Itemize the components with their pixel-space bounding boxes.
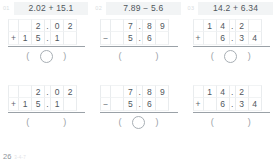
right-paren: ) — [63, 52, 66, 61]
problem-grid: 012.02 + 15.12.02+15.1()027.89 − 5.67.89… — [0, 0, 277, 132]
answer-input-slot[interactable] — [123, 115, 153, 130]
digit-cell[interactable]: 4 — [249, 98, 262, 111]
digit-cell[interactable]: 4 — [249, 32, 262, 45]
problem-index: 03 — [188, 6, 195, 12]
operator-cell[interactable]: − — [100, 98, 111, 111]
digit-cell[interactable]: 9 — [156, 19, 169, 32]
digit-cell[interactable]: 4 — [217, 85, 230, 98]
problem-6: 14.2+6.34() — [185, 66, 277, 132]
digit-cell[interactable]: 3 — [236, 98, 249, 111]
digit-cell[interactable]: 6 — [143, 98, 156, 111]
problem-header — [0, 66, 92, 83]
digit-cell[interactable]: 6 — [217, 98, 230, 111]
operator-cell[interactable] — [8, 85, 19, 98]
operator-cell[interactable] — [193, 19, 204, 32]
digit-cell[interactable] — [64, 98, 77, 111]
digit-cell[interactable]: 6 — [143, 32, 156, 45]
answer-input-slot[interactable] — [31, 49, 61, 64]
digit-cell[interactable]: 5 — [32, 98, 45, 111]
answer-row: () — [185, 47, 277, 66]
problem-5: 7.89−5.6() — [92, 66, 184, 132]
digit-cell[interactable]: 5 — [124, 98, 137, 111]
digit-cell[interactable] — [19, 19, 32, 32]
answer-input-slot[interactable] — [31, 115, 61, 130]
problem-3: 0314.2 + 6.3414.2+6.34() — [185, 0, 277, 66]
digit-cell[interactable]: 3 — [236, 32, 249, 45]
operator-cell[interactable] — [8, 19, 19, 32]
operator-cell[interactable]: + — [193, 98, 204, 111]
digit-cell[interactable]: 0 — [51, 19, 64, 32]
digit-cell[interactable] — [204, 98, 217, 111]
problem-row-bottom: 2.02+15.1()7.89−5.6()14.2+6.34() — [0, 66, 277, 132]
digit-cell[interactable]: 1 — [204, 85, 217, 98]
operator-cell[interactable] — [100, 85, 111, 98]
answer-input-slot[interactable] — [216, 49, 246, 64]
problem-2: 027.89 − 5.67.89−5.6() — [92, 0, 184, 66]
digit-cell[interactable]: 1 — [51, 32, 64, 45]
digit-cell[interactable]: 2 — [236, 85, 249, 98]
digit-cell[interactable] — [111, 19, 124, 32]
calculation-row: +6.34 — [193, 32, 270, 45]
problem-expression: 14.2 + 6.34 — [198, 2, 273, 15]
digit-cell[interactable]: 1 — [19, 32, 32, 45]
calculation-row: −5.6 — [100, 98, 177, 111]
digit-cell[interactable]: 2 — [64, 19, 77, 32]
digit-cell[interactable] — [156, 98, 169, 111]
digit-cell[interactable]: 1 — [51, 98, 64, 111]
left-paren: ( — [26, 52, 29, 61]
digit-cell[interactable] — [111, 32, 124, 45]
digit-cell[interactable]: 2 — [32, 85, 45, 98]
digit-cell[interactable] — [19, 85, 32, 98]
problem-header — [92, 66, 184, 83]
digit-cell[interactable]: 2 — [32, 19, 45, 32]
calculation-row: +15.1 — [8, 98, 85, 111]
problem-expression — [99, 68, 180, 81]
calculation-row: 2.02 — [8, 19, 85, 32]
vertical-calculation: 2.02+15.1 — [8, 19, 85, 45]
answer-row: () — [0, 47, 92, 66]
answer-row: () — [185, 113, 277, 132]
digit-cell[interactable] — [64, 32, 77, 45]
digit-cell[interactable]: 6 — [217, 32, 230, 45]
problem-index: 02 — [95, 6, 102, 12]
problem-expression: 2.02 + 15.1 — [14, 2, 89, 15]
problem-expression — [192, 68, 273, 81]
digit-cell[interactable]: 1 — [204, 19, 217, 32]
operator-cell[interactable]: + — [8, 98, 19, 111]
digit-cell[interactable] — [204, 32, 217, 45]
digit-cell[interactable] — [156, 32, 169, 45]
digit-cell[interactable]: 7 — [124, 19, 137, 32]
operator-cell[interactable]: + — [193, 32, 204, 45]
digit-cell[interactable]: 4 — [217, 19, 230, 32]
right-paren: ) — [155, 118, 158, 127]
digit-cell[interactable]: 5 — [124, 32, 137, 45]
digit-cell[interactable] — [111, 85, 124, 98]
digit-cell[interactable] — [249, 85, 262, 98]
worksheet-page: 012.02 + 15.12.02+15.1()027.89 − 5.67.89… — [0, 0, 277, 163]
digit-cell[interactable]: 0 — [51, 85, 64, 98]
calculation-row: 2.02 — [8, 85, 85, 98]
digit-cell[interactable]: 9 — [156, 85, 169, 98]
digit-cell[interactable]: 2 — [236, 19, 249, 32]
answer-input-slot[interactable] — [216, 115, 246, 130]
right-paren: ) — [155, 52, 158, 61]
right-paren: ) — [63, 118, 66, 127]
answer-input-slot[interactable] — [123, 49, 153, 64]
digit-cell[interactable]: 7 — [124, 85, 137, 98]
page-number: 26 — [3, 153, 11, 161]
digit-cell[interactable]: 8 — [143, 19, 156, 32]
operator-cell[interactable] — [100, 19, 111, 32]
digit-cell[interactable]: 1 — [19, 98, 32, 111]
operator-cell[interactable]: − — [100, 32, 111, 45]
operator-cell[interactable] — [193, 85, 204, 98]
left-paren: ( — [118, 118, 121, 127]
digit-cell[interactable]: 8 — [143, 85, 156, 98]
digit-cell[interactable]: 2 — [64, 85, 77, 98]
problem-index: 01 — [3, 6, 10, 12]
digit-cell[interactable] — [111, 98, 124, 111]
digit-cell[interactable]: 5 — [32, 32, 45, 45]
digit-cell[interactable] — [249, 19, 262, 32]
operator-cell[interactable]: + — [8, 32, 19, 45]
problem-4: 2.02+15.1() — [0, 66, 92, 132]
vertical-calculation: 2.02+15.1 — [8, 85, 85, 111]
